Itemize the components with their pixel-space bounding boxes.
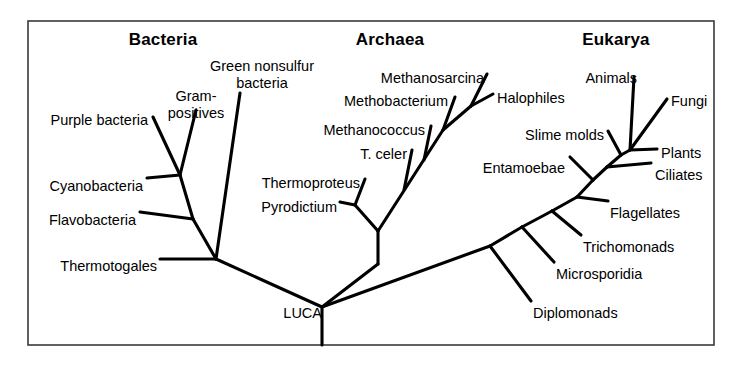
taxon-label-purple-bacteria: Purple bacteria [50, 112, 148, 129]
phylogenetic-tree-figure: BacteriaArchaeaEukarya Purple bacteriaGr… [0, 0, 737, 371]
branch-euk-spine-5 [593, 167, 607, 180]
branch-euk-flagellates [577, 197, 608, 201]
taxon-label-fungi: Fungi [671, 93, 707, 110]
taxon-label-green-nonsulfur: Green nonsulfurbacteria [210, 58, 314, 92]
branch-euk-spine-3 [552, 197, 577, 211]
taxon-label-slime-molds: Slime molds [525, 127, 604, 144]
branch-arch-pyrodictium [340, 202, 355, 205]
branch-bac-cyanobacteria [147, 175, 180, 178]
taxon-label-cyanobacteria: Cyanobacteria [50, 178, 144, 195]
branch-root-to-archaea [322, 264, 378, 307]
taxon-label-methanosarcina: Methanosarcina [381, 70, 484, 87]
branch-bac-purple [153, 117, 180, 175]
taxon-label-gram-positives: Gram-positives [168, 88, 224, 122]
branch-bac-spine [193, 219, 216, 259]
taxon-label-flavobacteria: Flavobacteria [49, 212, 136, 229]
taxon-label-microsporidia: Microsporidia [556, 266, 642, 283]
branch-euk-slime-molds [608, 131, 621, 155]
taxon-label-animals: Animals [585, 70, 637, 87]
branch-euk-entamoebae [570, 157, 593, 180]
branch-euk-trichomonads [552, 211, 581, 235]
branch-root-to-eukarya [322, 246, 490, 307]
taxon-label-trichomonads: Trichomonads [583, 239, 674, 256]
branch-euk-spine-2 [522, 211, 552, 227]
branch-euk-plants [630, 149, 657, 150]
root-label-luca: LUCA [283, 305, 322, 321]
taxon-label-methanococcus: Methanococcus [323, 122, 425, 139]
taxon-label-plants: Plants [661, 145, 701, 162]
taxon-label-entamoebae: Entamoebae [483, 160, 565, 177]
branch-euk-diplomonads [490, 246, 531, 301]
branch-euk-spine-1 [490, 227, 522, 246]
branch-euk-microsporidia [522, 227, 554, 262]
domain-heading-eukarya: Eukarya [582, 30, 650, 50]
branch-euk-animals [630, 77, 634, 150]
branch-euk-fungi [630, 99, 667, 150]
taxon-label-pyrodictium: Pyrodictium [261, 199, 337, 216]
taxon-label-flagellates: Flagellates [610, 205, 680, 222]
taxon-label-methobacterium: Methobacterium [344, 93, 448, 110]
branch-bac-flavobacteria [140, 212, 193, 219]
taxon-label-halophiles: Halophiles [497, 90, 565, 107]
taxon-label-thermotogales: Thermotogales [60, 258, 157, 275]
domain-heading-archaea: Archaea [356, 30, 425, 50]
branch-euk-spine-4 [577, 180, 593, 197]
branch-arch-crenarch-node [355, 205, 378, 231]
domain-heading-bacteria: Bacteria [129, 30, 198, 50]
taxon-label-ciliates: Ciliates [655, 167, 703, 184]
branch-bac-upper [180, 175, 193, 219]
taxon-label-diplomonads: Diplomonads [533, 305, 618, 322]
branch-root-to-bacteria [216, 259, 322, 307]
branch-euk-ciliates [607, 163, 651, 167]
taxon-label-thermoproteus: Thermoproteus [262, 175, 360, 192]
taxon-label-t-celer: T. celer [360, 146, 407, 163]
